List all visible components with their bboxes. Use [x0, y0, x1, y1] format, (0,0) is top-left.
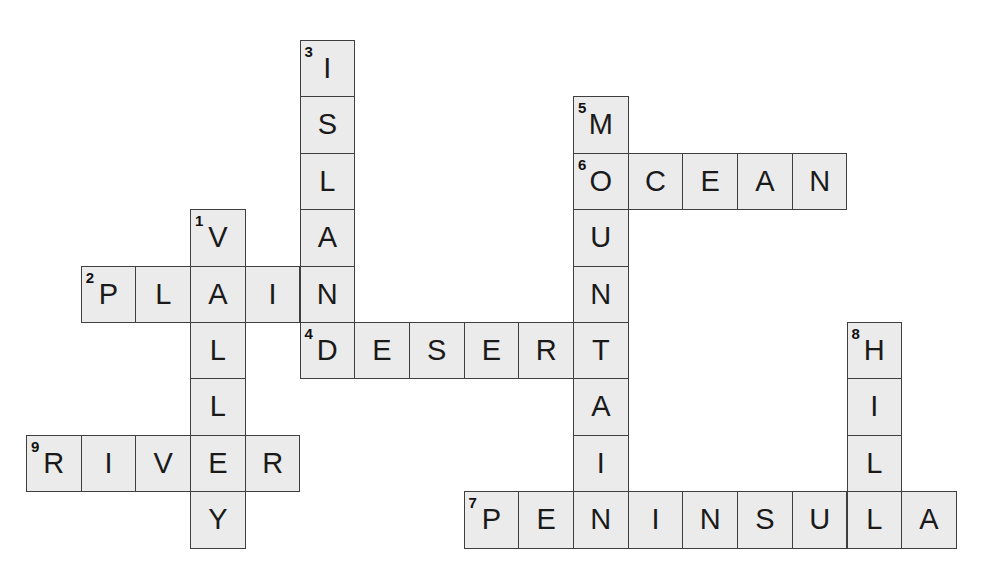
cell-letter: E [191, 448, 245, 480]
cell-letter: L [301, 166, 355, 198]
cell-letter: C [629, 166, 683, 198]
cell-letter: A [902, 504, 956, 536]
crossword-cell[interactable]: 9R [26, 435, 82, 492]
crossword-cell[interactable]: T [573, 322, 629, 379]
cell-letter: L [191, 335, 245, 367]
cell-letter: N [793, 166, 847, 198]
cell-letter: R [246, 448, 300, 480]
cell-letter: Y [191, 504, 245, 536]
crossword-cell[interactable]: E [682, 153, 738, 210]
cell-letter: I [246, 279, 300, 311]
crossword-cell[interactable]: V [135, 435, 191, 492]
crossword-cell[interactable]: I [573, 435, 629, 492]
crossword-cell[interactable]: 1V [190, 209, 246, 266]
cell-letter: P [465, 504, 519, 536]
crossword-cell[interactable]: 4D [300, 322, 356, 379]
cell-letter: I [848, 391, 902, 423]
crossword-cell[interactable]: N [682, 491, 738, 548]
cell-letter: L [191, 391, 245, 423]
crossword-cell[interactable]: S [409, 322, 465, 379]
crossword-cell[interactable]: R [245, 435, 301, 492]
crossword-cell[interactable]: 7P [464, 491, 520, 548]
crossword-cell[interactable]: N [573, 266, 629, 323]
cell-letter: L [848, 448, 902, 480]
crossword-cell[interactable]: A [737, 153, 793, 210]
cell-letter: V [191, 222, 245, 254]
crossword-cell[interactable]: S [737, 491, 793, 548]
crossword-cell[interactable]: L [300, 153, 356, 210]
cell-letter: E [519, 504, 573, 536]
cell-letter: T [574, 335, 628, 367]
cell-letter: L [848, 504, 902, 536]
cell-letter: O [574, 166, 628, 198]
cell-letter: S [410, 335, 464, 367]
cell-letter: U [574, 222, 628, 254]
cell-letter: I [574, 448, 628, 480]
crossword-cell[interactable]: E [354, 322, 410, 379]
cell-letter: N [301, 279, 355, 311]
cell-letter: E [355, 335, 409, 367]
crossword-cell[interactable]: A [300, 209, 356, 266]
cell-letter: L [136, 279, 190, 311]
cell-letter: A [191, 279, 245, 311]
cell-letter: H [848, 335, 902, 367]
cell-letter: A [301, 222, 355, 254]
cell-letter: E [683, 166, 737, 198]
cell-letter: V [136, 448, 190, 480]
crossword-cell[interactable]: U [792, 491, 848, 548]
cell-letter: P [82, 279, 136, 311]
cell-letter: D [301, 335, 355, 367]
cell-letter: I [629, 504, 683, 536]
crossword-cell[interactable]: U [573, 209, 629, 266]
cell-letter: R [519, 335, 573, 367]
crossword-cell[interactable]: L [847, 491, 903, 548]
crossword-cell[interactable]: 6O [573, 153, 629, 210]
cell-letter: A [738, 166, 792, 198]
cell-letter: N [574, 279, 628, 311]
crossword-cell[interactable]: E [190, 435, 246, 492]
crossword-cell[interactable]: Y [190, 491, 246, 548]
crossword-cell[interactable]: N [792, 153, 848, 210]
crossword-cell[interactable]: E [518, 491, 574, 548]
cell-letter: E [465, 335, 519, 367]
cell-letter: N [574, 504, 628, 536]
crossword-cell[interactable]: I [847, 378, 903, 435]
crossword-cell[interactable]: I [81, 435, 137, 492]
crossword-cell[interactable]: L [190, 378, 246, 435]
crossword-cell[interactable]: 5M [573, 96, 629, 153]
crossword-grid: 1VALLEY2PLIN3ISLA4DESERT5M6OUNAINCEAN7PE… [0, 0, 981, 579]
crossword-cell[interactable]: L [847, 435, 903, 492]
crossword-cell[interactable]: I [245, 266, 301, 323]
cell-letter: I [82, 448, 136, 480]
crossword-cell[interactable]: 8H [847, 322, 903, 379]
cell-letter: S [301, 109, 355, 141]
crossword-cell[interactable]: R [518, 322, 574, 379]
crossword-cell[interactable]: N [300, 266, 356, 323]
crossword-cell[interactable]: A [901, 491, 957, 548]
cell-letter: U [793, 504, 847, 536]
crossword-cell[interactable]: L [135, 266, 191, 323]
cell-letter: R [27, 448, 81, 480]
crossword-cell[interactable]: A [190, 266, 246, 323]
cell-letter: M [574, 109, 628, 141]
cell-letter: N [683, 504, 737, 536]
crossword-cell[interactable]: 2P [81, 266, 137, 323]
crossword-cell[interactable]: A [573, 378, 629, 435]
crossword-cell[interactable]: L [190, 322, 246, 379]
crossword-cell[interactable]: 3I [300, 40, 356, 97]
crossword-cell[interactable]: E [464, 322, 520, 379]
crossword-cell[interactable]: C [628, 153, 684, 210]
cell-letter: S [738, 504, 792, 536]
crossword-cell[interactable]: N [573, 491, 629, 548]
cell-letter: A [574, 391, 628, 423]
cell-letter: I [301, 53, 355, 85]
crossword-cell[interactable]: S [300, 96, 356, 153]
crossword-cell[interactable]: I [628, 491, 684, 548]
